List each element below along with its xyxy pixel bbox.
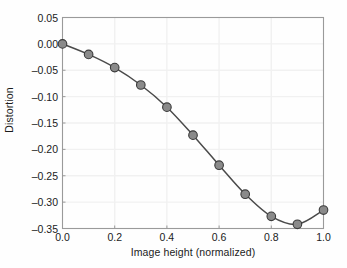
chart-figure: Distortion Image height (normalized) 0.0… (0, 0, 347, 268)
data-markers (58, 40, 328, 229)
gridlines (63, 18, 324, 229)
plot-area (0, 0, 347, 268)
